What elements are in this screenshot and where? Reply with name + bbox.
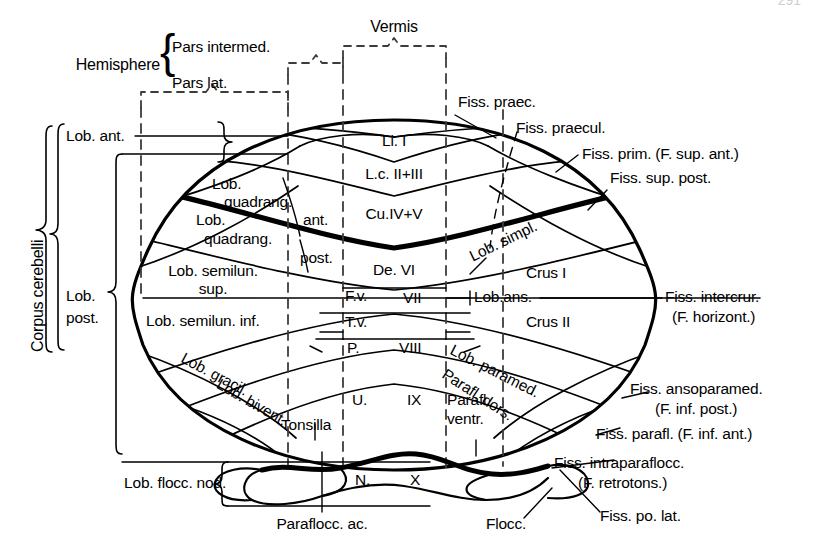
- fiss-intercrur-line1: Fiss. intercrur.: [665, 289, 759, 305]
- lob-ant-pointer-brace: [218, 122, 232, 162]
- vermis-declive: De. VI: [373, 262, 415, 278]
- lob-quadrang-ant-label: ant.: [303, 212, 328, 228]
- crus-i-label: Crus I: [526, 265, 566, 281]
- parafl-ventr-line1: Parafl.: [447, 392, 490, 408]
- lob-quadrang-inf-line1: Lob.: [196, 212, 225, 228]
- vermis-lingula: Li. I: [382, 133, 406, 149]
- fiss-sup-post-label: Fiss. sup. post.: [610, 170, 711, 186]
- fiss-praec-label: Fiss. praec.: [458, 94, 536, 110]
- lob-post-label-line1: Lob.: [66, 288, 95, 304]
- fiss-ansoparamed-line2: (F. inf. post.): [655, 401, 737, 417]
- vermis-nodulus: N.: [355, 472, 370, 488]
- pars-intermedia-bracket: [288, 55, 343, 75]
- lob-quadrang-post-label: post.: [300, 250, 333, 266]
- crus-ii-label: Crus II: [526, 314, 570, 330]
- lob-semilun-inf-label: Lob. semilun. inf.: [146, 313, 260, 329]
- fiss-intercrur-line2: (F. horizont.): [672, 309, 755, 325]
- fiss-intraparaflocc-line2: (F. retrotons.): [578, 475, 667, 491]
- fiss-prim-label: Fiss. prim. (F. sup. ant.): [582, 146, 739, 162]
- flocc-label: Flocc.: [486, 516, 526, 532]
- corpus-cerebelli-label: Corpus cerebelli: [30, 240, 47, 352]
- fiss-parafl-label: Fiss. parafl. (F. inf. ant.): [596, 426, 752, 442]
- lobus-brace: [50, 124, 64, 350]
- fiss-ansoparamed-line1: Fiss. ansoparamed.: [630, 381, 763, 397]
- vermis-lobulus-centralis: L.c. II+III: [365, 166, 423, 182]
- lob-quadrang-inf-line2: quadrang.: [204, 231, 272, 247]
- vermis-folium: F.v.: [345, 288, 367, 304]
- lob-quadrang-sup-line1: Lob.: [212, 176, 241, 192]
- figure-canvas: 291: [0, 0, 819, 550]
- lob-post-brace: [108, 154, 122, 454]
- fiss-praecul-label: Fiss. praecul.: [516, 120, 605, 136]
- pars-intermed-label: Pars intermed.: [172, 39, 270, 55]
- tonsilla-label: Tonsilla: [281, 417, 331, 433]
- vermis-eight: VIII: [399, 340, 421, 356]
- lob-semilun-sup-line1: Lob. semilun.: [168, 263, 258, 279]
- lingula-lens-right: [394, 134, 488, 146]
- vermis-culmen: Cu.IV+V: [366, 206, 423, 222]
- lingula-lens-left: [300, 134, 394, 146]
- fiss-intraparaflocc-line1: Fiss. intraparaflocc.: [554, 455, 684, 471]
- lob-semilun-sup-line2: sup.: [199, 281, 228, 297]
- lob-ant-label: Lob. ant.: [66, 128, 125, 144]
- fiss-po-lat-label: Fiss. po. lat.: [600, 508, 681, 524]
- flocculus-loop-2: [467, 474, 493, 500]
- lob-flocc-nod-label: Lob. flocc. nod.: [124, 475, 226, 491]
- paraflocc-ac-label: Paraflocc. ac.: [276, 516, 367, 532]
- paraflocculus-accessorius-loop-2: [322, 468, 346, 496]
- pars-lat-label: Pars lat.: [172, 75, 227, 91]
- hemisphere-brace: {: [160, 30, 175, 74]
- vermis-uvula: U.: [352, 392, 367, 408]
- vermis-bracket: [343, 38, 446, 58]
- leader-lob-gracil: [310, 346, 322, 352]
- vermis-pyramis: P.: [347, 340, 359, 356]
- lob-quadrang-sup-line2: quadrang.: [224, 194, 292, 210]
- parafl-ventr-line2: ventr.: [447, 411, 484, 427]
- lob-ans-label: Lob.ans.: [474, 289, 532, 305]
- vermis-label: Vermis: [370, 19, 418, 36]
- lob-post-label-line2: post.: [66, 310, 99, 326]
- vermis-seven: VII: [403, 290, 421, 306]
- vermis-ten: X: [410, 472, 420, 488]
- hemisphere-label: Hemisphere: [76, 57, 160, 74]
- vermis-nine: IX: [407, 392, 421, 408]
- vermis-tuber: T.v.: [345, 314, 367, 330]
